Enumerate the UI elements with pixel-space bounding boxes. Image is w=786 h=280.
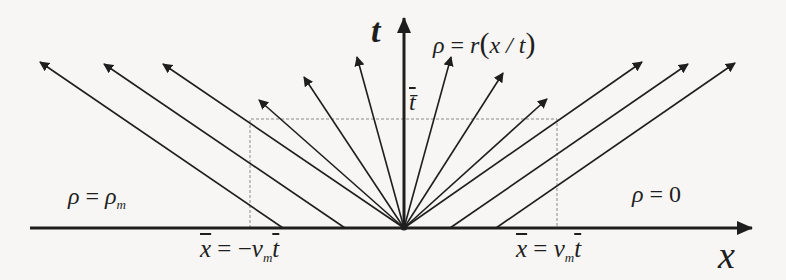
characteristic-arrow-7: [404, 57, 451, 228]
subscript-m: m: [263, 250, 272, 265]
equals-sign: =: [527, 235, 554, 262]
right-region-label: ρ = 0: [632, 182, 681, 206]
characteristic-arrow-12: [496, 63, 735, 228]
fan-region-label: ρ = r(x / t): [433, 28, 535, 58]
left-xbar-label: x = −vmt: [200, 236, 279, 261]
equals-minus: = −: [211, 235, 252, 262]
equals-sign: =: [644, 181, 670, 207]
equals-sign: =: [445, 32, 471, 58]
v-symbol: v: [252, 235, 263, 262]
characteristic-arrow-10: [404, 62, 642, 228]
left-region-label: ρ = ρm: [68, 184, 126, 208]
right-paren: ): [525, 26, 535, 59]
subscript-m: m: [565, 250, 574, 265]
similarity-variable: x / t: [489, 32, 525, 58]
characteristic-arrow-6: [357, 57, 404, 228]
v-symbol: v: [554, 235, 565, 262]
characteristic-arrow-3: [163, 64, 404, 228]
characteristic-arrow-8: [404, 73, 503, 228]
rho-max-symbol: ρ: [105, 183, 117, 209]
x-bar-symbol: x: [200, 235, 211, 262]
x-bar-symbol: x: [516, 235, 527, 262]
subscript-m: m: [117, 197, 126, 212]
zero-value: 0: [669, 181, 681, 207]
characteristic-arrow-9: [404, 99, 547, 228]
diagram-canvas: t t̄ x ρ = r(x / t) ρ = ρm ρ = 0 x = −vm…: [0, 0, 786, 280]
characteristic-arrow-2: [104, 64, 345, 228]
t-bar-symbol: t: [574, 235, 581, 262]
rho-symbol: ρ: [433, 32, 445, 58]
t-bar-symbol: t: [272, 235, 279, 262]
rho-symbol: ρ: [68, 183, 80, 209]
characteristics-diagram: [0, 0, 786, 280]
rho-symbol: ρ: [632, 181, 644, 207]
x-axis-label: x: [718, 236, 735, 274]
origin-point: [401, 224, 408, 231]
t-axis-label: t: [371, 14, 380, 48]
equals-sign: =: [80, 183, 106, 209]
characteristic-lines: [40, 57, 735, 228]
right-xbar-label: x = vmt: [516, 236, 581, 261]
t-bar-label: t̄: [409, 90, 416, 114]
left-paren: (: [479, 26, 489, 59]
